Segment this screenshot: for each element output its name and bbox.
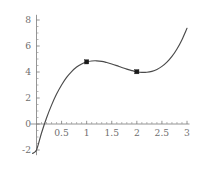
- chart-container: 0.511.522.53‐202468: [0, 0, 199, 169]
- plot-area: 0.511.522.53‐202468: [0, 0, 199, 169]
- x-tick-label: 1.5: [104, 127, 119, 138]
- y-tick-label: 4: [25, 66, 31, 77]
- y-tick-label: 6: [25, 40, 31, 51]
- data-point-marker: [135, 70, 139, 74]
- x-tick-label: 0.5: [54, 127, 69, 138]
- data-points-group: [85, 60, 139, 74]
- y-tick-label: ‐2: [22, 144, 31, 155]
- axes-group: 0.511.522.53‐202468: [22, 14, 190, 155]
- x-tick-label: 1: [84, 127, 90, 138]
- y-tick-label: 2: [25, 92, 31, 103]
- x-tick-label: 2.5: [155, 127, 170, 138]
- data-point-marker: [85, 60, 89, 64]
- y-tick-label: 8: [25, 14, 31, 25]
- x-tick-label: 3: [184, 127, 190, 138]
- x-tick-label: 2: [134, 127, 140, 138]
- y-tick-label: 0: [25, 118, 31, 129]
